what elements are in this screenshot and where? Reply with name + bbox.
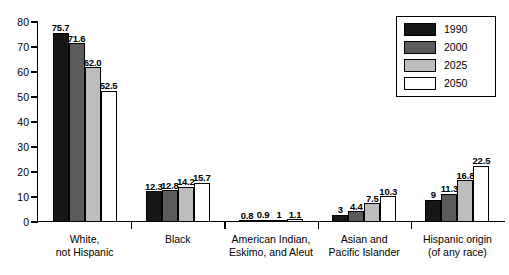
bar-value-label: 52.5 [100,81,118,91]
y-axis-tick-label: 30 [1,142,29,153]
category-separator-tick [131,222,132,229]
bar-value-label: 22.5 [473,156,491,166]
category-label-line: Asian and [318,233,411,246]
y-axis-tick [31,71,38,72]
bar: 4.4 [348,211,364,222]
category-label-line: Black [131,233,224,246]
bar: 75.7 [53,33,69,222]
y-axis-tick [31,21,38,22]
bar-value-label: 4.4 [350,202,363,212]
legend-item-1: 2000 [404,40,489,55]
bar: 16.8 [457,180,473,222]
y-axis-tick [31,96,38,97]
bar-value-label: 1.1 [289,210,302,220]
legend-swatch-icon [404,23,436,36]
bar: 62.0 [85,67,101,222]
bar-value-label: 15.7 [193,173,211,183]
bar-value-label: 3 [338,205,343,215]
bar-value-label: 75.7 [52,23,70,33]
legend-item-2: 2025 [404,58,489,73]
bar: 11.3 [441,194,457,222]
bar-group: 12.312.814.215.7 [146,22,210,222]
legend-label: 2050 [444,78,467,89]
bar: 52.5 [101,91,117,222]
y-axis-tick-label: 0 [1,217,29,228]
bar-value-label: 16.8 [457,171,475,181]
bar: 0.9 [255,220,271,222]
bar: 12.3 [146,191,162,222]
legend-label: 1990 [444,24,467,35]
bar: 0.8 [239,220,255,222]
y-axis-tick-label: 50 [1,92,29,103]
y-axis-tick [31,46,38,47]
category-label-line: White, [38,233,131,246]
bar: 9 [425,200,441,223]
bar-value-label: 0.8 [241,211,254,221]
category-separator-tick [411,222,412,229]
bar-value-label: 11.3 [441,184,458,194]
y-axis-tick-label: 60 [1,67,29,78]
bar: 71.6 [69,43,85,222]
category-label-line: not Hispanic [38,246,131,259]
bar: 14.2 [178,187,194,223]
legend: 1990 2000 2025 2050 [396,16,496,97]
category-separator-tick [224,222,225,229]
category-label-line: Hispanic origin [411,233,504,246]
bar: 1.1 [287,219,303,222]
bar: 22.5 [473,166,489,222]
bar-value-label: 1 [276,210,281,220]
legend-swatch-icon [404,59,436,72]
category-label: Hispanic origin(of any race) [411,233,504,258]
bar-value-label: 0.9 [257,210,270,220]
category-label: American Indian,Eskimo, and Aleut [224,233,317,258]
bar-value-label: 7.5 [366,194,379,204]
bar-group: 75.771.662.052.5 [53,22,117,222]
y-axis-tick [31,196,38,197]
legend-item-0: 1990 [404,22,489,37]
category-label-line: Eskimo, and Aleut [224,246,317,259]
category-label-line: American Indian, [224,233,317,246]
legend-swatch-icon [404,77,436,90]
category-separator-tick [318,222,319,229]
y-axis-tick [31,146,38,147]
bar-group: 34.47.510.3 [332,22,396,222]
y-axis-tick [31,121,38,122]
bar-group: 0.80.911.1 [239,22,303,222]
y-axis-tick-label: 20 [1,167,29,178]
y-axis-tick [31,171,38,172]
bar-chart: 01020304050607080 75.771.662.052.512.312… [0,0,509,275]
legend-item-3: 2050 [404,76,489,91]
category-label: White,not Hispanic [38,233,131,258]
bar: 10.3 [380,196,396,222]
legend-label: 2000 [444,42,467,53]
y-axis-tick [31,221,38,222]
y-axis-tick-label: 40 [1,117,29,128]
legend-label: 2025 [444,60,467,71]
legend-swatch-icon [404,41,436,54]
bar-value-label: 71.6 [68,34,86,44]
y-axis-tick-label: 70 [1,42,29,53]
bar: 7.5 [364,203,380,222]
bar: 12.8 [162,190,178,222]
y-axis-tick-label: 80 [1,17,29,28]
bar-value-label: 10.3 [379,187,397,197]
bar: 15.7 [194,183,210,222]
bar-value-label: 9 [431,190,436,200]
bar: 3 [332,215,348,223]
category-label-line: (of any race) [411,246,504,259]
category-label-line: Pacific Islander [318,246,411,259]
figure-caption [0,271,509,275]
category-label: Black [131,233,224,246]
bar-value-label: 62.0 [84,58,102,68]
y-axis-tick-label: 10 [1,192,29,203]
bar: 1 [271,220,287,223]
category-label: Asian andPacific Islander [318,233,411,258]
